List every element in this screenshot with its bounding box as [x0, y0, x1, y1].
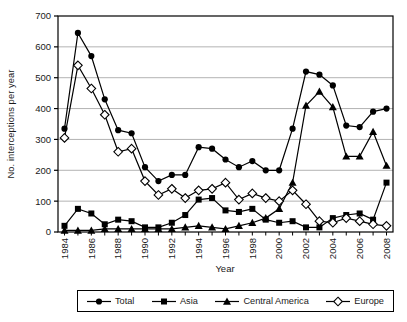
- y-tick-label: 700: [35, 10, 51, 21]
- y-axis-ticks: 0100200300400500600700: [35, 10, 58, 237]
- y-tick-label: 400: [35, 103, 51, 114]
- y-tick-label: 200: [35, 165, 51, 176]
- y-tick-label: 0: [46, 226, 51, 237]
- legend-label-europe: Europe: [354, 296, 384, 306]
- y-tick-label: 600: [35, 41, 51, 52]
- legend-label-central-america: Central America: [243, 296, 308, 306]
- x-tick-label: 2000: [273, 238, 284, 259]
- square-filled-icon: [152, 296, 176, 307]
- y-tick-label: 300: [35, 134, 51, 145]
- x-tick-label: 2004: [327, 238, 338, 259]
- line-chart-figure: 0100200300400500600700198419861988199019…: [0, 0, 407, 322]
- legend: TotalAsiaCentral AmericaEurope: [77, 290, 394, 312]
- x-tick-label: 2002: [300, 238, 311, 259]
- x-tick-label: 1992: [166, 238, 177, 259]
- x-tick-label: 1984: [59, 238, 70, 259]
- legend-entry-central-america: Central America: [215, 296, 308, 307]
- diamond-open-icon: [326, 296, 350, 307]
- legend-entry-asia: Asia: [152, 296, 198, 307]
- y-axis-label: No. interceptions per year: [6, 69, 16, 178]
- x-tick-label: 1994: [193, 238, 204, 259]
- triangle-filled-icon: [215, 296, 239, 307]
- legend-entry-europe: Europe: [326, 296, 384, 307]
- x-tick-label: 1988: [112, 238, 123, 259]
- plot-area: 0100200300400500600700198419861988199019…: [0, 0, 407, 322]
- x-tick-label: 2008: [381, 238, 392, 259]
- series-europe: [60, 61, 391, 230]
- x-axis-label: Year: [215, 263, 234, 274]
- x-tick-label: 1986: [86, 238, 97, 259]
- circle-filled-icon: [87, 296, 111, 307]
- x-tick-label: 1998: [247, 238, 258, 259]
- x-tick-label: 1996: [220, 238, 231, 259]
- series-total: [61, 30, 389, 184]
- legend-entry-total: Total: [87, 296, 134, 307]
- y-tick-label: 500: [35, 72, 51, 83]
- x-tick-label: 1990: [139, 238, 150, 259]
- y-tick-label: 100: [35, 196, 51, 207]
- x-tick-label: 2006: [354, 238, 365, 259]
- x-axis-ticks: 1984198619881990199219941996199820002002…: [59, 232, 392, 259]
- legend-label-asia: Asia: [180, 296, 198, 306]
- legend-label-total: Total: [115, 296, 134, 306]
